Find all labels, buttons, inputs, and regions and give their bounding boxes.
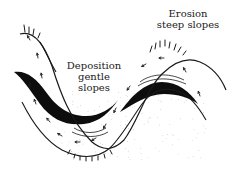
stipple-dot [199, 150, 200, 151]
stipple-dot [95, 152, 96, 153]
stipple-dot [90, 127, 91, 128]
stipple-dot [86, 93, 87, 94]
stipple-dot [123, 128, 124, 129]
hachure-mark [110, 150, 112, 154]
flow-arrow [104, 124, 107, 128]
erosion-label-line1: Erosion [148, 8, 228, 19]
hachure-mark [24, 25, 25, 32]
stipple-dot [134, 106, 135, 107]
syncline-arc-lines [72, 128, 108, 137]
stipple-dot [150, 117, 151, 118]
stipple-dot [142, 113, 143, 114]
stipple-dot [95, 141, 96, 142]
stipple-dot [162, 135, 163, 136]
stipple-dot [110, 155, 111, 156]
stipple-dot [153, 96, 154, 97]
stipple-dot [195, 97, 196, 98]
flow-arrow [36, 53, 38, 58]
stipple-dot [100, 143, 101, 144]
stipple-dot [198, 133, 199, 134]
stipple-dot [64, 132, 65, 133]
stipple-dot [80, 140, 81, 141]
stipple-dot [72, 101, 73, 102]
stipple-dot [83, 144, 84, 145]
stipple-dot [141, 159, 142, 160]
flow-arrow [198, 91, 200, 96]
deposition-label: Deposition gentle slopes [60, 60, 128, 93]
stipple-dot [132, 107, 133, 108]
stipple-dot [120, 105, 121, 106]
stipple-dot [127, 120, 128, 121]
flow-arrow [114, 108, 116, 113]
stipple-dot [206, 128, 207, 129]
deposition-label-line3: slopes [60, 82, 128, 93]
stipple-dot [73, 159, 74, 160]
stipple-dot [159, 151, 160, 152]
stipple-dot [80, 105, 81, 106]
stipple-dot [167, 134, 168, 135]
stipple-dot [178, 99, 179, 100]
stipple-dot [160, 109, 161, 110]
stipple-dot [186, 100, 187, 101]
stipple-dot [126, 116, 127, 117]
stipple-dot [184, 102, 185, 103]
stipple-dot [166, 138, 167, 139]
stipple-dot [128, 151, 129, 152]
stipple-dot [148, 157, 149, 158]
stipple-dot [94, 148, 95, 149]
stipple-dot [180, 118, 181, 119]
flow-arrow [40, 73, 42, 78]
stipple-dot [192, 140, 193, 141]
stipple-dot [100, 157, 101, 158]
stipple-dot [125, 148, 126, 149]
deposition-label-line2: gentle [60, 71, 128, 82]
deposition-label-line1: Deposition [60, 60, 128, 71]
stipple-dot [204, 126, 205, 127]
stipple-dot [141, 153, 142, 154]
stipple-dot [173, 135, 174, 136]
stipple-dot [126, 95, 127, 96]
stipple-dot [170, 124, 171, 125]
stipple-dot [99, 106, 100, 107]
flow-arrow [47, 118, 50, 122]
stipple-dot [112, 114, 113, 115]
stipple-dot [128, 157, 129, 158]
stipple-dot [120, 125, 121, 126]
stipple-dot [71, 151, 72, 152]
hachure-mark [183, 51, 186, 55]
stipple-dot [102, 124, 103, 125]
stipple-dot [126, 125, 127, 126]
hachure-mark [178, 47, 181, 52]
flow-arrow [58, 134, 62, 137]
stipple-dot [157, 117, 158, 118]
stipple-dot [94, 110, 95, 111]
stipple-dot [108, 115, 109, 116]
stipple-dot [120, 97, 121, 98]
stipple-dot [158, 100, 159, 101]
stipple-dot [134, 93, 135, 94]
stipple-dot [194, 108, 195, 109]
stipple-dot [171, 99, 172, 100]
stipple-dot [140, 148, 141, 149]
stipple-dot [194, 129, 195, 130]
stipple-dot [203, 112, 204, 113]
hachure-mark [150, 46, 152, 52]
hachure-mark [104, 154, 105, 158]
hachure-mark [155, 43, 156, 49]
stipple-dot [110, 113, 111, 114]
stipple-dot [172, 144, 173, 145]
flow-arrow [34, 99, 36, 104]
hachure-mark [169, 42, 170, 48]
stipple-dot [125, 124, 126, 125]
flow-arrow [28, 36, 31, 40]
stipple-dot [127, 141, 128, 142]
stipple-dot [117, 156, 118, 157]
hachure-mark [33, 29, 34, 35]
stipple-dot [193, 156, 194, 157]
stipple-dot [196, 137, 197, 138]
stipple-dot [108, 101, 109, 102]
flow-arrow [142, 64, 146, 67]
flow-arrow [159, 57, 164, 59]
flow-arrow [184, 68, 187, 72]
stipple-dot [130, 106, 131, 107]
